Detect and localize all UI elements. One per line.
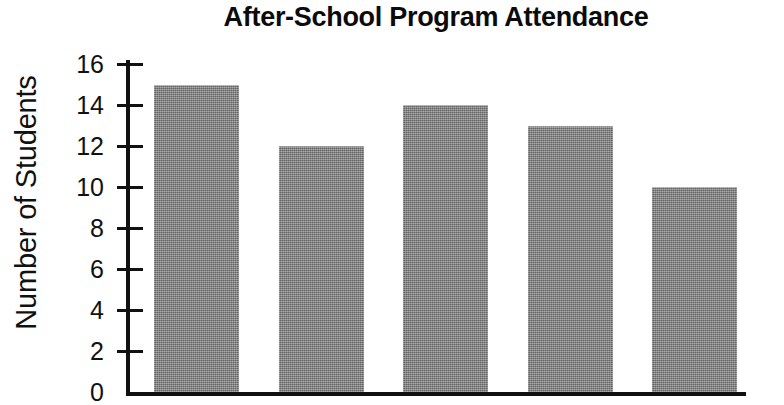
y-axis-title: Number of Students xyxy=(0,0,52,405)
y-tick-label: 8 xyxy=(90,216,104,241)
y-tick-label: 12 xyxy=(76,134,104,159)
plot-area: 1614121086420 xyxy=(126,60,746,396)
bar xyxy=(403,105,488,392)
y-tick-label: 2 xyxy=(90,339,104,364)
y-tick-label: 0 xyxy=(90,380,104,405)
bar-chart-figure: After-School Program Attendance Number o… xyxy=(0,0,784,405)
bar xyxy=(652,187,737,392)
bar xyxy=(279,146,364,392)
bar xyxy=(528,126,613,393)
y-axis-title-label: Number of Students xyxy=(10,75,43,329)
y-tick-label: 16 xyxy=(76,52,104,77)
y-tick-label: 4 xyxy=(90,298,104,323)
chart-title: After-School Program Attendance xyxy=(126,1,746,33)
y-tick-label: 14 xyxy=(76,93,104,118)
y-tick-label: 6 xyxy=(90,257,104,282)
y-tick-label: 10 xyxy=(76,175,104,200)
bar xyxy=(154,85,239,393)
bar-series xyxy=(126,60,746,396)
